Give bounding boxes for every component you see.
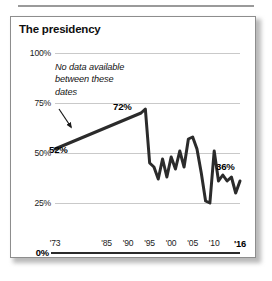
chart-card: The presidency 100%75%50%25%0% '73'85'90… [10, 16, 256, 258]
data-label-peak: 72% [113, 101, 132, 112]
chart-figure: The presidency 100%75%50%25%0% '73'85'90… [0, 0, 272, 281]
annotation-arrow-icon [11, 17, 257, 259]
data-label-end: 36% [216, 161, 235, 172]
plot-area: 100%75%50%25%0% '73'85'90'95'00'05'10'16… [11, 17, 257, 259]
page-top-rule [18, 5, 254, 7]
data-label-start: 52% [49, 144, 68, 155]
